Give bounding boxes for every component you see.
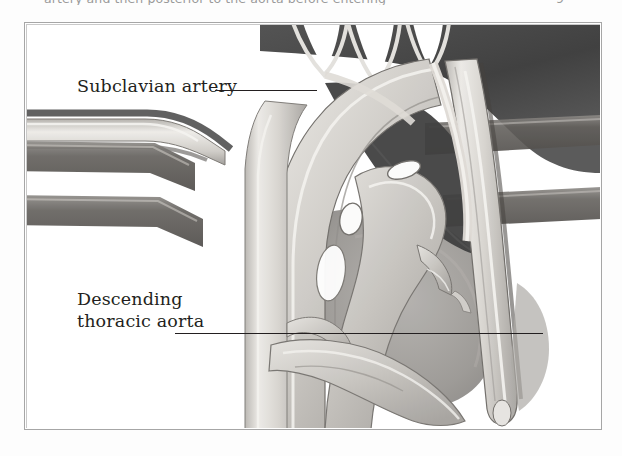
label-subclavian-artery: Subclavian artery <box>77 75 237 97</box>
leader-line-descending <box>175 333 543 334</box>
running-text-line: artery and then posterior to the aorta b… <box>44 0 386 5</box>
figure-frame: Subclavian artery Descending thoracic ao… <box>24 22 602 430</box>
page-canvas: artery and then posterior to the aorta b… <box>0 0 622 456</box>
label-descending-thoracic-aorta: Descending thoracic aorta <box>77 288 204 332</box>
page-number: 9 <box>556 0 564 5</box>
running-body-text: artery and then posterior to the aorta b… <box>44 0 564 5</box>
